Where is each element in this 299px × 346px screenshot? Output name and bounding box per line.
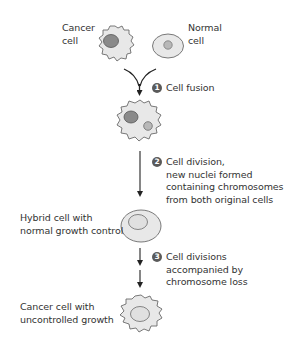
step-line: Cell fusion <box>166 82 214 95</box>
step-line: chromosome loss <box>166 276 248 289</box>
label-line: normal growth control <box>20 225 123 238</box>
step-3-text: Cell divisions accompanied by chromosome… <box>166 251 248 289</box>
step-1-text: Cell fusion <box>166 82 214 95</box>
step-1-badge: 1 <box>152 83 162 93</box>
cancer-final-label: Cancer cell with uncontrolled growth <box>20 301 114 326</box>
fused-cell-icon <box>117 100 161 141</box>
cancer-cell-icon <box>99 26 134 61</box>
label-line: uncontrolled growth <box>20 314 114 327</box>
step-line: Cell division, <box>166 156 283 169</box>
normal-cell-label: Normal cell <box>188 22 222 47</box>
label-line: cell <box>188 35 222 48</box>
step-line: containing chromosomes <box>166 181 283 194</box>
cancer-cell-label: Cancer cell <box>62 22 95 47</box>
step-3-badge: 3 <box>152 252 162 262</box>
step-line: from both original cells <box>166 194 283 207</box>
hybrid-cell-label: Hybrid cell with normal growth control <box>20 212 123 237</box>
step-2-badge: 2 <box>152 157 162 167</box>
cell-fusion-diagram: Cancer cell Normal cell 1 Cell fusion 2 … <box>0 0 299 346</box>
step-2-text: Cell division, new nuclei formed contain… <box>166 156 283 206</box>
step-line: new nuclei formed <box>166 169 283 182</box>
label-line: cell <box>62 35 95 48</box>
label-line: Normal <box>188 22 222 35</box>
label-line: Hybrid cell with <box>20 212 123 225</box>
fusion-arrow-icon <box>124 69 156 93</box>
hybrid-cell-icon <box>121 210 161 242</box>
cancer-cell-final-icon <box>120 295 162 332</box>
step-line: accompanied by <box>166 264 248 277</box>
step-line: Cell divisions <box>166 251 248 264</box>
label-line: Cancer cell with <box>20 301 114 314</box>
label-line: Cancer <box>62 22 95 35</box>
normal-cell-icon <box>153 34 184 58</box>
